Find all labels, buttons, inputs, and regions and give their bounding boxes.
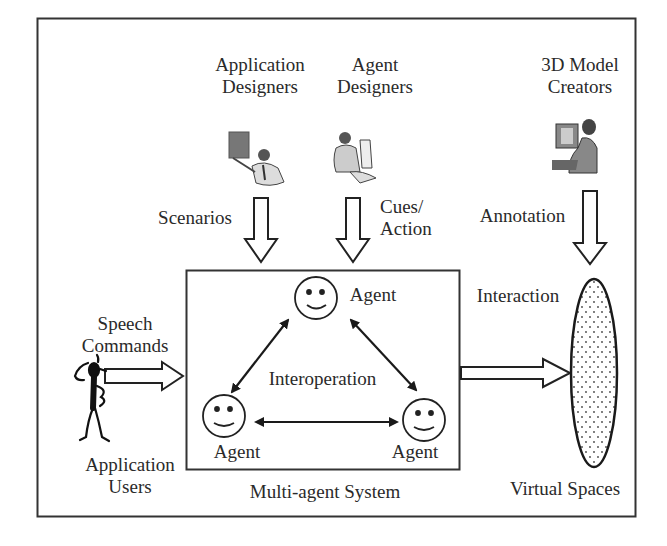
label-line: Application xyxy=(70,454,190,476)
cues-action-label: Cues/ Action xyxy=(380,196,445,240)
speech-commands-label: Speech Commands xyxy=(70,313,180,357)
agent-label-top: Agent xyxy=(338,284,408,306)
label-line: Creators xyxy=(525,76,635,98)
label-line: Users xyxy=(70,476,190,498)
scenarios-label: Scenarios xyxy=(150,207,240,229)
agent-label-right: Agent xyxy=(380,441,450,463)
application-designers-label: Application Designers xyxy=(195,54,325,98)
smiley-agent-icon xyxy=(203,395,245,437)
speech-commands-arrow xyxy=(105,362,183,390)
presenter-clipart-icon xyxy=(229,132,284,185)
label-line: 3D Model xyxy=(525,54,635,76)
label-line: Designers xyxy=(195,76,325,98)
label-line: Designers xyxy=(325,76,425,98)
label-line: Application xyxy=(195,54,325,76)
label-line: Commands xyxy=(70,335,180,357)
scenarios-arrow xyxy=(245,198,277,262)
label-line: Speech xyxy=(70,313,180,335)
label-line: Agent xyxy=(325,54,425,76)
virtual-spaces-label: Virtual Spaces xyxy=(494,478,636,500)
label-line: Action xyxy=(380,218,445,240)
stick-figure-user-icon xyxy=(75,355,109,441)
agent-designers-label: Agent Designers xyxy=(325,54,425,98)
cues-action-arrow xyxy=(337,198,369,262)
smiley-agent-icon xyxy=(403,399,445,441)
multi-agent-system-caption: Multi-agent System xyxy=(220,481,430,503)
label-line: Cues/ xyxy=(380,196,445,218)
interaction-label: Interaction xyxy=(466,285,570,307)
model-creators-label: 3D Model Creators xyxy=(525,54,635,98)
virtual-spaces-ellipse xyxy=(571,279,617,467)
creator-at-computer-clipart-icon xyxy=(552,119,597,173)
annotation-arrow xyxy=(574,191,606,264)
application-users-label: Application Users xyxy=(70,454,190,498)
interoperation-label: Interoperation xyxy=(250,368,395,390)
interaction-arrow xyxy=(461,359,570,387)
agent-label-left: Agent xyxy=(202,441,272,463)
smiley-agent-icon xyxy=(295,277,337,319)
annotation-label: Annotation xyxy=(470,205,575,227)
designer-at-computer-clipart-icon xyxy=(334,132,376,183)
